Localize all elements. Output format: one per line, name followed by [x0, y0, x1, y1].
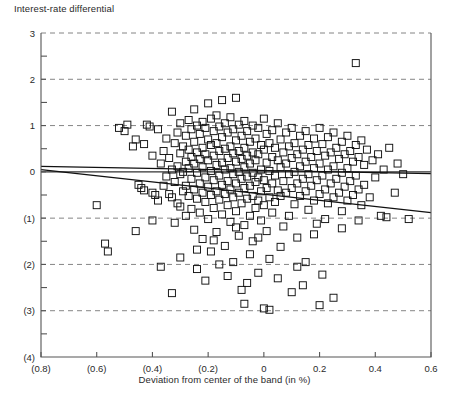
- svg-text:(0.2): (0.2): [198, 363, 218, 374]
- svg-text:0.6: 0.6: [424, 363, 437, 374]
- svg-text:(4): (4): [23, 352, 35, 363]
- x-tick-labels: (0.8)(0.6)(0.4)(0.2)00.20.40.6: [31, 363, 437, 374]
- svg-text:(0.4): (0.4): [143, 363, 163, 374]
- minor-tick-marks: [41, 56, 47, 334]
- svg-text:0.4: 0.4: [369, 363, 382, 374]
- svg-text:2: 2: [30, 74, 35, 85]
- svg-text:0: 0: [261, 363, 266, 374]
- x-axis-title: Deviation from center of the band (in %): [0, 374, 449, 385]
- svg-text:(3): (3): [23, 305, 35, 316]
- svg-text:0: 0: [30, 166, 35, 177]
- scatter-figure: Interest-rate differential (4)(3)(2)(1)0…: [0, 0, 449, 414]
- data-point-markers: [93, 60, 412, 314]
- axis-frame: [41, 33, 431, 357]
- svg-text:(0.6): (0.6): [87, 363, 107, 374]
- svg-text:0.2: 0.2: [313, 363, 326, 374]
- gridlines: [41, 33, 431, 311]
- svg-text:3: 3: [30, 28, 35, 39]
- y-axis-title: Interest-rate differential: [14, 3, 114, 14]
- plot-canvas: (4)(3)(2)(1)0123 (0.8)(0.6)(0.4)(0.2)00.…: [0, 0, 449, 414]
- svg-text:(1): (1): [23, 213, 35, 224]
- svg-text:1: 1: [30, 120, 35, 131]
- svg-text:(0.8): (0.8): [31, 363, 51, 374]
- svg-text:(2): (2): [23, 259, 35, 270]
- y-tick-labels: (4)(3)(2)(1)0123: [23, 28, 35, 363]
